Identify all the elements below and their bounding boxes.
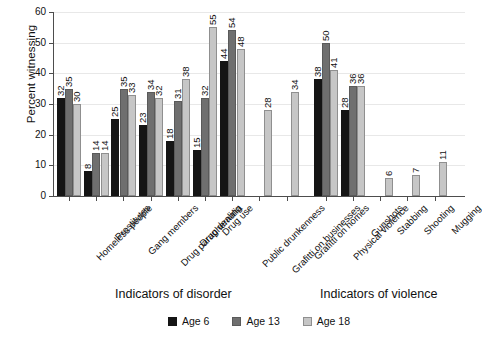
bar-group: 81414 <box>84 12 111 196</box>
legend-label: Age 6 <box>182 316 209 326</box>
y-tick-mark <box>49 12 53 13</box>
bar-value-label: 35 <box>64 76 73 87</box>
y-tick-mark <box>49 196 53 197</box>
x-tick-mark <box>353 197 354 201</box>
bar: 33 <box>128 95 136 196</box>
x-tick-mark <box>151 197 152 201</box>
bar-value-label: 8 <box>83 164 92 169</box>
bar: 38 <box>182 79 190 196</box>
y-tick-label: 10 <box>23 160 46 170</box>
bar: 54 <box>228 30 236 196</box>
bar: 36 <box>357 86 365 196</box>
chart-legend: Age 6Age 13Age 18 <box>168 316 350 326</box>
bar: 32 <box>57 98 65 196</box>
bar-value-label: 38 <box>313 67 322 78</box>
legend-item: Age 6 <box>168 316 209 326</box>
bar: 11 <box>439 162 447 196</box>
bar-group: 183138 <box>166 12 193 196</box>
plot-area: 0102030405060 32353081414253533233432183… <box>53 12 465 196</box>
bar-value-label: 18 <box>165 128 174 139</box>
legend-swatch <box>168 317 177 326</box>
bar: 44 <box>220 61 228 196</box>
bar-value-label: 38 <box>181 67 190 78</box>
bar-value-label: 23 <box>138 113 147 124</box>
bar-value-label: 54 <box>227 18 236 29</box>
caption-indicators-of-violence: Indicators of violence <box>320 287 437 301</box>
x-tick-mark <box>205 197 206 201</box>
bar-value-label: 41 <box>329 58 338 69</box>
bar-value-label: 44 <box>219 49 228 60</box>
bar: 28 <box>341 110 349 196</box>
bar: 38 <box>314 79 322 196</box>
y-tick-label: 30 <box>23 99 46 109</box>
x-tick-mark <box>287 197 288 201</box>
bar-group: 28 <box>247 12 274 196</box>
x-tick-mark <box>232 197 233 201</box>
bar-group: 6 <box>368 12 395 196</box>
bar-group: 233432 <box>139 12 166 196</box>
bar-value-label: 36 <box>356 73 365 84</box>
y-tick-label: 20 <box>23 130 46 140</box>
y-tick-mark <box>49 165 53 166</box>
bar: 25 <box>111 119 119 196</box>
y-tick-label: 60 <box>23 7 46 17</box>
x-tick-mark <box>178 197 179 201</box>
bar-value-label: 30 <box>72 91 81 102</box>
bar-value-label: 14 <box>100 141 109 152</box>
bar: 18 <box>166 141 174 196</box>
bar-value-label: 32 <box>154 85 163 96</box>
bar-group: 445448 <box>220 12 247 196</box>
x-tick-mark <box>96 197 97 201</box>
bar-group: 153255 <box>193 12 220 196</box>
y-tick-mark <box>49 135 53 136</box>
bar-value-label: 28 <box>340 98 349 109</box>
x-tick-mark <box>69 197 70 201</box>
bar: 15 <box>193 150 201 196</box>
bar: 30 <box>73 104 81 196</box>
bar-value-label: 31 <box>173 88 182 99</box>
bar: 41 <box>330 70 338 196</box>
legend-label: Age 18 <box>317 316 350 326</box>
x-tick-mark <box>123 197 124 201</box>
bar-value-label: 32 <box>200 85 209 96</box>
bar-group: 385041 <box>314 12 341 196</box>
bar: 14 <box>92 153 100 196</box>
bar-group: 11 <box>423 12 450 196</box>
bar: 7 <box>412 175 420 196</box>
bar-group: 34 <box>275 12 302 196</box>
legend-item: Age 13 <box>232 316 279 326</box>
bar: 8 <box>84 171 92 196</box>
bar-value-label: 7 <box>411 167 420 172</box>
bar-value-label: 11 <box>438 150 447 160</box>
y-tick-mark <box>49 104 53 105</box>
bar-value-label: 15 <box>192 137 201 148</box>
bar: 23 <box>139 125 147 196</box>
x-tick-mark <box>259 197 260 201</box>
bar-value-label: 33 <box>127 82 136 93</box>
y-tick-mark <box>49 73 53 74</box>
bar: 35 <box>120 89 128 196</box>
x-tick-mark <box>407 197 408 201</box>
legend-label: Age 13 <box>246 316 279 326</box>
bar-value-label: 25 <box>110 107 119 118</box>
bar: 36 <box>349 86 357 196</box>
bar-value-label: 28 <box>263 98 272 109</box>
y-tick-mark <box>49 43 53 44</box>
x-tick-mark <box>435 197 436 201</box>
bar: 34 <box>291 92 299 196</box>
bar: 14 <box>101 153 109 196</box>
bar: 32 <box>201 98 209 196</box>
bar-value-label: 48 <box>236 36 245 47</box>
legend-swatch <box>303 317 312 326</box>
bar: 48 <box>237 49 245 196</box>
bar-value-label: 34 <box>290 79 299 90</box>
bar-group: 283636 <box>341 12 368 196</box>
bar-group: 7 <box>395 12 422 196</box>
legend-item: Age 18 <box>303 316 350 326</box>
bar-group: 323530 <box>57 12 84 196</box>
bar: 28 <box>264 110 272 196</box>
bar: 35 <box>65 89 73 196</box>
bar-value-label: 50 <box>321 30 330 41</box>
x-tick-mark <box>380 197 381 201</box>
bar: 6 <box>385 178 393 196</box>
